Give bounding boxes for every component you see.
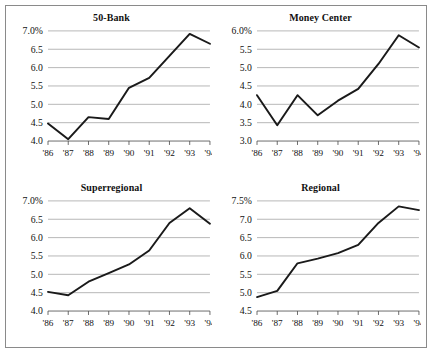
- svg-text:'87: '87: [272, 148, 283, 158]
- svg-text:'94: '94: [414, 317, 421, 327]
- svg-text:'91: '91: [353, 148, 364, 158]
- svg-text:'94: '94: [414, 148, 421, 158]
- svg-text:'89: '89: [103, 148, 114, 158]
- svg-text:3.0: 3.0: [240, 136, 252, 147]
- svg-text:4.5: 4.5: [31, 117, 43, 128]
- line-chart-svg: 4.04.55.05.56.06.57.0%'86'87'88'89'90'91…: [7, 25, 212, 173]
- svg-text:'93: '93: [393, 148, 404, 158]
- line-chart-svg: 4.04.55.05.56.06.57.0%'86'87'88'89'90'91…: [7, 195, 212, 343]
- svg-text:'89: '89: [103, 317, 114, 327]
- svg-text:'90: '90: [333, 148, 344, 158]
- svg-text:5.0: 5.0: [240, 62, 252, 73]
- svg-text:5.5: 5.5: [240, 44, 252, 55]
- svg-text:'92: '92: [373, 317, 384, 327]
- svg-text:'91: '91: [353, 317, 364, 327]
- svg-text:'92: '92: [164, 317, 175, 327]
- line-chart-svg: 4.55.05.56.06.57.07.5%'86'87'88'89'90'91…: [216, 195, 421, 343]
- panel-title: Superregional: [7, 182, 216, 194]
- svg-text:'88: '88: [83, 148, 94, 158]
- chart-figure: 50-Bank 4.04.55.05.56.06.57.0%'86'87'88'…: [0, 0, 432, 353]
- svg-text:6.5: 6.5: [31, 213, 43, 224]
- svg-text:'87: '87: [63, 317, 74, 327]
- svg-text:'90: '90: [333, 317, 344, 327]
- svg-text:'94: '94: [205, 148, 212, 158]
- svg-text:'87: '87: [272, 317, 283, 327]
- plot-area: 4.04.55.05.56.06.57.0%'86'87'88'89'90'91…: [7, 195, 212, 343]
- svg-text:'86: '86: [43, 317, 54, 327]
- svg-text:'86: '86: [252, 148, 263, 158]
- svg-text:7.0: 7.0: [240, 213, 252, 224]
- svg-text:4.5: 4.5: [240, 305, 252, 316]
- svg-text:'92: '92: [164, 148, 175, 158]
- panel-title: Regional: [216, 182, 425, 194]
- svg-text:'94: '94: [205, 317, 212, 327]
- line-chart-svg: 3.03.54.04.55.05.56.0%'86'87'88'89'90'91…: [216, 25, 421, 173]
- svg-text:6.5: 6.5: [31, 44, 43, 55]
- svg-text:'86: '86: [252, 317, 263, 327]
- svg-text:6.0%: 6.0%: [232, 25, 252, 36]
- svg-text:5.5: 5.5: [31, 80, 43, 91]
- plot-area: 4.55.05.56.06.57.07.5%'86'87'88'89'90'91…: [216, 195, 421, 343]
- panel-grid: 50-Bank 4.04.55.05.56.06.57.0%'86'87'88'…: [7, 7, 425, 346]
- svg-text:5.0: 5.0: [31, 99, 43, 110]
- panel-regional: Regional 4.55.05.56.06.57.07.5%'86'87'88…: [216, 177, 425, 347]
- panel-superregional: Superregional 4.04.55.05.56.06.57.0%'86'…: [7, 177, 216, 347]
- svg-text:'92: '92: [373, 148, 384, 158]
- svg-text:5.5: 5.5: [240, 268, 252, 279]
- svg-text:'86: '86: [43, 148, 54, 158]
- svg-text:4.5: 4.5: [240, 80, 252, 91]
- svg-text:7.5%: 7.5%: [232, 195, 252, 206]
- svg-text:'90: '90: [124, 317, 135, 327]
- svg-text:5.0: 5.0: [240, 287, 252, 298]
- svg-text:'89: '89: [312, 148, 323, 158]
- svg-text:'91: '91: [144, 317, 155, 327]
- svg-text:5.0: 5.0: [31, 268, 43, 279]
- svg-text:'93: '93: [184, 317, 195, 327]
- svg-text:7.0%: 7.0%: [23, 195, 43, 206]
- panel-title: 50-Bank: [7, 12, 216, 24]
- svg-text:4.0: 4.0: [31, 136, 43, 147]
- svg-text:4.0: 4.0: [240, 99, 252, 110]
- svg-text:'88: '88: [292, 317, 303, 327]
- svg-text:'89: '89: [312, 317, 323, 327]
- svg-text:'87: '87: [63, 148, 74, 158]
- svg-text:'93: '93: [184, 148, 195, 158]
- svg-text:6.0: 6.0: [31, 62, 43, 73]
- svg-text:6.0: 6.0: [31, 232, 43, 243]
- svg-text:5.5: 5.5: [31, 250, 43, 261]
- svg-text:'93: '93: [393, 317, 404, 327]
- svg-text:3.5: 3.5: [240, 117, 252, 128]
- plot-area: 4.04.55.05.56.06.57.0%'86'87'88'89'90'91…: [7, 25, 212, 173]
- svg-text:4.0: 4.0: [31, 305, 43, 316]
- panel-money-center: Money Center 3.03.54.04.55.05.56.0%'86'8…: [216, 7, 425, 177]
- plot-area: 3.03.54.04.55.05.56.0%'86'87'88'89'90'91…: [216, 25, 421, 173]
- panel-title: Money Center: [216, 12, 425, 24]
- svg-text:4.5: 4.5: [31, 287, 43, 298]
- svg-text:'88: '88: [83, 317, 94, 327]
- svg-text:'90: '90: [124, 148, 135, 158]
- svg-text:6.0: 6.0: [240, 250, 252, 261]
- svg-text:'91: '91: [144, 148, 155, 158]
- panel-50-bank: 50-Bank 4.04.55.05.56.06.57.0%'86'87'88'…: [7, 7, 216, 177]
- svg-text:'88: '88: [292, 148, 303, 158]
- svg-text:6.5: 6.5: [240, 232, 252, 243]
- svg-text:7.0%: 7.0%: [23, 25, 43, 36]
